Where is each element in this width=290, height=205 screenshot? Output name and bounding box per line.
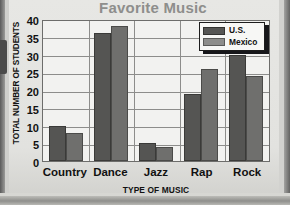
- chart-legend: U.S. Mexico: [199, 22, 265, 51]
- legend-swatch-mexico-icon: [203, 38, 225, 46]
- bar-country-us: [49, 126, 66, 162]
- bar-rock-mexico: [246, 76, 263, 161]
- bar-jazz-mexico: [156, 147, 173, 161]
- x-axis-tick-dance: Dance: [88, 163, 134, 181]
- bar-rap-mexico: [201, 69, 218, 161]
- bar-country-mexico: [66, 133, 83, 161]
- y-axis-tick-label: 40: [27, 16, 39, 27]
- page-edge-right-inner: [279, 0, 284, 205]
- y-axis-tick-label: 5: [33, 140, 39, 151]
- y-axis-tick-label: 35: [27, 33, 39, 44]
- y-axis-tick-label: 25: [27, 69, 39, 80]
- bar-dance-mexico: [111, 26, 128, 161]
- page-edge-left-inner: [5, 0, 9, 205]
- page-edge-right: [284, 0, 290, 205]
- bar-group: [133, 21, 178, 161]
- y-axis-tick-label: 20: [27, 87, 39, 98]
- bar-rock-us: [229, 55, 246, 162]
- x-axis-label: TYPE OF MUSIC: [42, 185, 270, 195]
- x-axis-tick-rock: Rock: [224, 163, 270, 181]
- y-axis-tick-label: 15: [27, 104, 39, 115]
- y-axis-label: TOTAL NUMBER OF STUDENTS: [11, 9, 23, 157]
- x-axis-tick-rap: Rap: [179, 163, 225, 181]
- legend-swatch-us-icon: [203, 27, 225, 35]
- x-axis-tick-labels: CountryDanceJazzRapRock: [42, 163, 270, 181]
- y-axis-tick-label: 0: [33, 158, 39, 169]
- legend-label-us: U.S.: [229, 26, 245, 35]
- bar-group: [88, 21, 133, 161]
- page-edge-bottom: [0, 196, 290, 205]
- x-axis-tick-jazz: Jazz: [133, 163, 179, 181]
- y-axis-tick-label: 10: [27, 122, 39, 133]
- y-axis-tick-label: 30: [27, 51, 39, 62]
- chart-title: Favorite Music: [78, 0, 228, 17]
- bar-group: [43, 21, 88, 161]
- legend-item-us: U.S.: [203, 25, 261, 36]
- chart-page: Favorite Music TOTAL NUMBER OF STUDENTS …: [0, 0, 290, 205]
- legend-item-mexico: Mexico: [203, 37, 261, 48]
- bar-dance-us: [94, 33, 111, 161]
- x-axis-tick-country: Country: [42, 163, 88, 181]
- bar-rap-us: [184, 94, 201, 161]
- page-binding-mark: [0, 40, 7, 74]
- bar-jazz-us: [139, 143, 156, 161]
- legend-label-mexico: Mexico: [229, 38, 257, 47]
